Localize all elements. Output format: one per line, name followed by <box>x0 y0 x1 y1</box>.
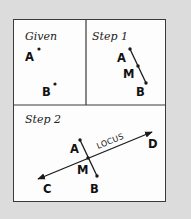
panel-step2: Step 2 A M B C D LOCUS <box>25 113 158 196</box>
point-label-c: C <box>43 182 51 196</box>
point-a-dot <box>37 47 40 50</box>
panel-step1: Step 1 A M B <box>92 30 148 99</box>
point-label-b: B <box>136 85 145 99</box>
point-label-b: B <box>42 85 51 99</box>
point-label-b: B <box>90 182 99 196</box>
panel-title-given: Given <box>25 30 57 43</box>
midpoint-m-dot <box>86 156 89 159</box>
panel-title-step1: Step 1 <box>92 30 128 43</box>
point-b-dot <box>53 82 56 85</box>
point-a-dot <box>128 47 131 50</box>
point-label-m: M <box>123 67 134 81</box>
point-label-a: A <box>70 142 79 156</box>
point-b-dot <box>144 81 147 84</box>
midpoint-m-dot <box>136 64 139 67</box>
point-label-m: M <box>77 163 88 177</box>
point-label-a: A <box>25 50 34 64</box>
point-label-a: A <box>117 51 126 65</box>
panel-title-step2: Step 2 <box>25 113 61 126</box>
point-b-dot <box>95 174 98 177</box>
perpendicular-bisector-locus-diagram: Given A B Step 1 A M B Step 2 A M B C D … <box>0 0 191 219</box>
panel-given: Given A B <box>25 30 57 99</box>
point-label-d: D <box>148 137 158 151</box>
locus-label: LOCUS <box>95 132 125 151</box>
